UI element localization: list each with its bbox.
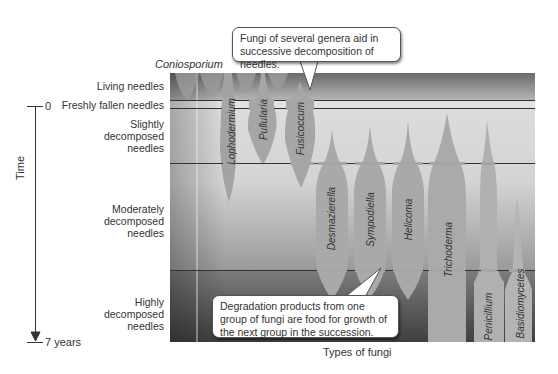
stage-label-slightly-decomposed: Slightly decomposed needles [104,118,164,154]
fungus-label-fusicoccum: Fusicoccum [295,99,306,159]
fungus-label-basidiomycetes: Basidiomycetes [515,266,526,342]
time-axis-end-tick: 7 years [45,336,81,348]
fungus-label-pullularia: Pullularia [258,93,269,147]
fungus-label-desmazierella: Desmazierella [326,181,337,257]
stage-label-highly-decomposed: Highly decomposed needles [104,296,164,332]
stage-label-freshly-fallen: Freshly fallen needles [62,99,164,111]
fungus-label-lophodermium: Lophodermium [226,97,237,167]
callout-bottom: Degradation products from one group of f… [212,295,399,338]
fungus-label-sympodiella: Sympodiella [365,185,376,255]
fungus-label-coniosporium: Coniosporium [155,58,223,70]
callout-top: Fungi of several genera aid in successiv… [232,27,401,62]
fungus-label-helicoma: Helicoma [403,192,414,248]
fungus-label-trichoderma: Trichoderma [443,217,454,283]
time-axis-start-tick: 0 [45,100,51,112]
x-axis-label: Types of fungi [323,346,392,358]
stage-label-living: Living needles [97,80,164,92]
time-axis [27,106,43,343]
stage-label-moderately-decomposed: Moderately decomposed needles [104,203,164,239]
fungus-label-penicillium: Penicillium [483,290,494,344]
time-axis-label: Time [14,156,26,180]
